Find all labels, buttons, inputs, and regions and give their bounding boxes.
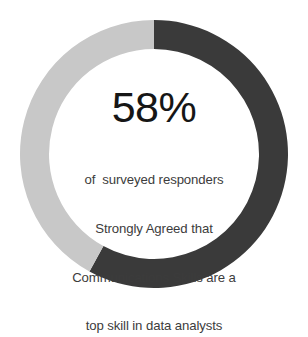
donut-slices: [20, 20, 288, 288]
caption-line-4: top skill in data analysts: [34, 318, 274, 334]
donut-slice-remainder: [20, 20, 154, 271]
donut-slice-strongly-agreed: [89, 20, 288, 288]
